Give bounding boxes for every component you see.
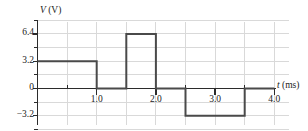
x-axis-symbol: t [277, 80, 280, 90]
x-tick-label: 3.0 [198, 94, 232, 104]
y-tick-label: 0 [0, 82, 34, 92]
x-tick-label: 4.0 [257, 94, 291, 104]
y-tick-label: −3.2 [0, 109, 34, 119]
chart-plot-area [0, 0, 308, 131]
voltage-waveform-chart: V (V) t (ms) 6.43.20−3.2 1.02.03.04.0 [0, 0, 308, 131]
y-axis-title: V (V) [40, 5, 61, 15]
gridlines [38, 20, 290, 129]
x-tick-label: 1.0 [80, 94, 114, 104]
y-axis-symbol: V [40, 5, 46, 15]
y-tick-label: 6.4 [0, 27, 34, 37]
x-axis-title: t (ms) [277, 80, 299, 90]
x-tick-label: 2.0 [139, 94, 173, 104]
y-axis-unit: (V) [48, 5, 61, 15]
y-tick-label: 3.2 [0, 55, 34, 65]
x-axis-unit: (ms) [282, 80, 299, 90]
